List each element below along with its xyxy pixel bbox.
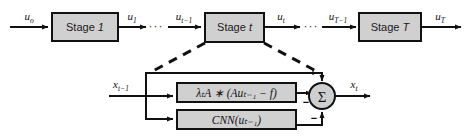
signal-label-ut: ut <box>277 10 286 25</box>
sigma-glyph: Σ <box>318 89 327 105</box>
signal-label-uT: uT <box>435 10 446 25</box>
stage-1-label: Stage 1 <box>66 21 104 33</box>
plus-sign-top: + <box>310 66 316 78</box>
wire-cnn-to-sum <box>296 112 322 125</box>
cnn-block-label: CNN(uₜ₋₁) <box>212 114 262 127</box>
diagram-canvas: Stage 1 Stage t Stage T uo u1 ut−1 ut uT… <box>0 0 471 139</box>
detail-input-label: xt−1 <box>112 78 129 93</box>
dashed-connector-left <box>151 43 205 72</box>
data-fidelity-block-label: λₜA ∗ (Auₜ₋₁ − f) <box>195 87 277 100</box>
stage-t-label: Stage t <box>217 21 253 33</box>
ellipsis-1: ··· <box>149 19 164 33</box>
diagram-root: Stage 1 Stage t Stage T uo u1 ut−1 ut uT… <box>0 0 471 139</box>
ellipsis-2: ··· <box>304 19 319 33</box>
wire-branch-to-cnn <box>146 96 173 119</box>
signal-label-u0: uo <box>24 10 34 25</box>
signal-label-u1: u1 <box>127 10 136 25</box>
minus-sign-left: − <box>303 96 309 108</box>
detail-output-label: xt <box>350 78 359 93</box>
minus-sign-bottom: − <box>311 112 317 124</box>
signal-label-uT-1: uT−1 <box>329 10 347 25</box>
signal-label-ut-1: ut−1 <box>176 10 192 25</box>
stage-T-label: Stage T <box>371 21 411 33</box>
